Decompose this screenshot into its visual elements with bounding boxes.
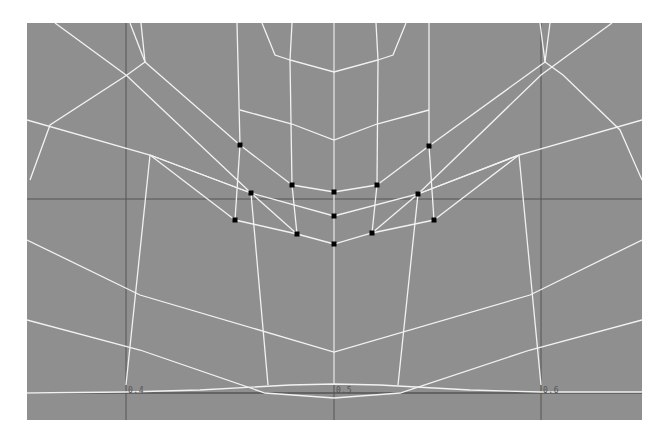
vertex-handle[interactable] bbox=[332, 190, 337, 195]
mesh-edges[interactable] bbox=[27, 23, 642, 398]
mesh-edge[interactable] bbox=[378, 23, 406, 60]
wireframe-mesh[interactable] bbox=[27, 23, 642, 420]
vertex-handle[interactable] bbox=[233, 218, 238, 223]
axis-tick-label: 0.6 bbox=[543, 386, 559, 395]
vertex-handle[interactable] bbox=[249, 191, 254, 196]
mesh-edge[interactable] bbox=[418, 23, 612, 194]
mesh-edge[interactable] bbox=[377, 146, 429, 185]
mesh-edge[interactable] bbox=[126, 155, 150, 385]
mesh-edge[interactable] bbox=[150, 155, 251, 193]
mesh-edge[interactable] bbox=[55, 23, 251, 193]
vertex-handle[interactable] bbox=[238, 143, 243, 148]
axis-tick-label: 0.4 bbox=[128, 386, 144, 395]
mesh-edge[interactable] bbox=[434, 155, 519, 220]
mesh-edge[interactable] bbox=[262, 23, 290, 60]
mesh-edge[interactable] bbox=[145, 62, 240, 145]
axis-tick-label: 0.5 bbox=[336, 386, 352, 395]
mesh-edge[interactable] bbox=[292, 185, 297, 234]
mesh-edge[interactable] bbox=[240, 145, 292, 185]
3d-viewport[interactable] bbox=[27, 23, 642, 420]
vertex-handle[interactable] bbox=[332, 214, 337, 219]
vertex-handle[interactable] bbox=[290, 183, 295, 188]
vertex-handle[interactable] bbox=[416, 192, 421, 197]
mesh-edge[interactable] bbox=[418, 155, 519, 194]
mesh-edge[interactable] bbox=[251, 193, 268, 385]
vertex-handle[interactable] bbox=[427, 144, 432, 149]
mesh-edge[interactable] bbox=[372, 185, 377, 233]
mesh-edge[interactable] bbox=[377, 60, 378, 185]
vertex-handle[interactable] bbox=[375, 183, 380, 188]
mesh-edge[interactable] bbox=[429, 62, 545, 146]
vertex-handle[interactable] bbox=[295, 232, 300, 237]
mesh-edge[interactable] bbox=[398, 194, 418, 385]
mesh-edge[interactable] bbox=[150, 155, 235, 220]
mesh-edge[interactable] bbox=[545, 23, 642, 180]
mesh-edge[interactable] bbox=[237, 23, 240, 145]
vertex-handle[interactable] bbox=[370, 231, 375, 236]
mesh-edge[interactable] bbox=[290, 60, 292, 185]
vertex-handle[interactable] bbox=[432, 218, 437, 223]
vertex-handle[interactable] bbox=[332, 242, 337, 247]
